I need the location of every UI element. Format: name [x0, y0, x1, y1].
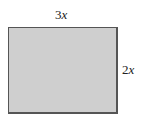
rectangle	[8, 27, 118, 114]
width-label: 3x	[55, 7, 67, 23]
height-label: 2x	[122, 62, 134, 78]
